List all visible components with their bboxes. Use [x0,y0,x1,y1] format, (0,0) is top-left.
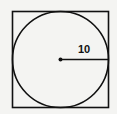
center-point [59,58,63,62]
diagram-canvas: 10 [0,0,117,114]
geometry-figure [0,0,117,114]
radius-label: 10 [78,44,90,55]
